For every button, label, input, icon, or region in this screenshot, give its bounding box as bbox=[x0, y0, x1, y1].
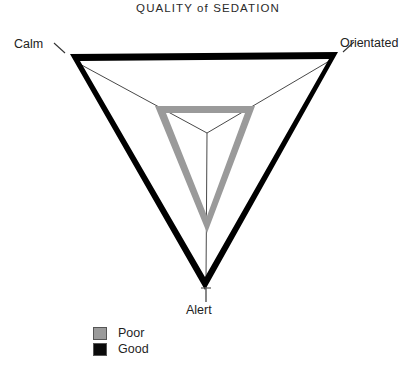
chart-legend: Poor Good bbox=[93, 325, 149, 357]
tick-calm bbox=[54, 43, 65, 53]
legend-item-good: Good bbox=[93, 341, 149, 357]
quality-of-sedation-chart: QUALITY of SEDATION Calm Orientated Aler… bbox=[0, 0, 416, 366]
legend-label-good: Good bbox=[118, 342, 149, 357]
legend-swatch-good bbox=[93, 343, 107, 356]
legend-swatch-poor bbox=[93, 327, 107, 340]
legend-label-poor: Poor bbox=[118, 326, 144, 341]
legend-item-poor: Poor bbox=[93, 325, 149, 341]
series-good-triangle bbox=[70, 52, 338, 290]
axis-label-orientated: Orientated bbox=[340, 36, 398, 50]
axis-ticks bbox=[54, 42, 354, 302]
series-poor-triangle bbox=[155, 106, 255, 233]
axis-spoke-alert bbox=[206, 133, 207, 280]
axis-label-alert: Alert bbox=[186, 303, 212, 317]
axis-spokes bbox=[76, 60, 331, 280]
axis-label-calm: Calm bbox=[14, 37, 43, 51]
